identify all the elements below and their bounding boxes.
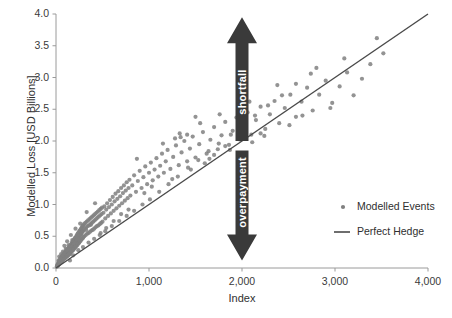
y-tick-label: 1.5 [23, 166, 49, 178]
legend-label-2: Perfect Hedge [357, 225, 424, 237]
x-tick-label: 3,000 [311, 275, 359, 287]
legend-dot-marker [341, 205, 345, 209]
scatter-series-modelled-events [55, 36, 386, 269]
y-tick-label: 3.5 [23, 39, 49, 51]
chart-container: Modelled Loss [USD Billions] Index 0.00.… [0, 0, 452, 318]
x-tick-label: 4,000 [404, 275, 452, 287]
x-tick-label: 0 [32, 275, 80, 287]
y-tick-label: 0.0 [23, 261, 49, 273]
x-tick-label: 2,000 [218, 275, 266, 287]
y-tick-label: 1.0 [23, 198, 49, 210]
plot-svg [0, 0, 452, 318]
y-tick-label: 2.0 [23, 134, 49, 146]
legend-label-1: Modelled Events [357, 200, 435, 212]
x-axis-title: Index [56, 292, 428, 304]
y-tick-label: 0.5 [23, 229, 49, 241]
y-tick-label: 3.0 [23, 71, 49, 83]
y-tick-label: 4.0 [23, 7, 49, 19]
annotation-label-overpayment: overpayment [236, 157, 248, 228]
legend-markers [334, 205, 350, 232]
y-tick-label: 2.5 [23, 102, 49, 114]
x-tick-label: 1,000 [125, 275, 173, 287]
annotation-label-shortfall: shortfall [236, 69, 248, 114]
